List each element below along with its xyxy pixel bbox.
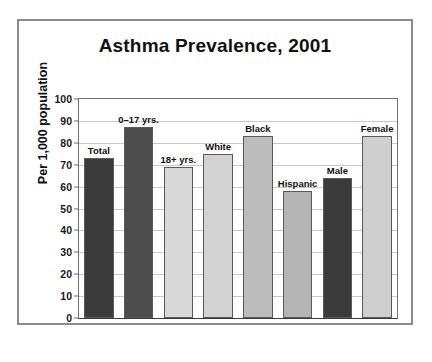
y-tick-mark — [74, 296, 79, 297]
y-tick-mark — [74, 252, 79, 253]
y-tick-mark — [74, 274, 79, 275]
y-tick-label: 90 — [60, 115, 72, 127]
bar-label: Total — [88, 145, 110, 156]
y-tick-mark — [74, 318, 79, 319]
bar: 0–17 yrs. — [124, 127, 153, 318]
y-tick-mark — [74, 164, 79, 165]
bar-label: 18+ yrs. — [161, 154, 197, 165]
bar: Female — [362, 136, 391, 318]
y-axis-label: Per 1,000 population — [36, 33, 50, 213]
y-tick-mark — [74, 230, 79, 231]
plot-area: 0102030405060708090100 Total0–17 yrs.18+… — [78, 98, 398, 319]
bar-label: 0–17 yrs. — [118, 114, 159, 125]
y-tick-mark — [74, 142, 79, 143]
bar: 18+ yrs. — [164, 167, 193, 318]
y-tick-label: 70 — [60, 159, 72, 171]
y-tick-label: 100 — [54, 93, 72, 105]
bar: White — [203, 154, 232, 318]
y-tick-label: 60 — [60, 181, 72, 193]
bar-label: Hispanic — [278, 178, 318, 189]
y-tick-label: 10 — [60, 290, 72, 302]
bar-label: Black — [245, 123, 270, 134]
bar: Black — [243, 136, 272, 318]
bar: Total — [84, 158, 113, 318]
chart-title: Asthma Prevalence, 2001 — [19, 35, 411, 57]
y-tick-label: 0 — [66, 312, 72, 324]
bar: Male — [323, 178, 352, 318]
y-tick-mark — [74, 208, 79, 209]
y-tick-mark — [74, 99, 79, 100]
y-tick-mark — [74, 186, 79, 187]
chart-frame: Asthma Prevalence, 2001 Per 1,000 popula… — [17, 19, 413, 325]
bar-label: Female — [361, 123, 394, 134]
y-tick-label: 20 — [60, 268, 72, 280]
bar-label: White — [205, 141, 231, 152]
bar-label: Male — [327, 165, 348, 176]
y-tick-label: 50 — [60, 203, 72, 215]
y-tick-mark — [74, 120, 79, 121]
y-tick-label: 80 — [60, 137, 72, 149]
y-tick-label: 30 — [60, 246, 72, 258]
y-tick-label: 40 — [60, 224, 72, 236]
bar: Hispanic — [283, 191, 312, 318]
